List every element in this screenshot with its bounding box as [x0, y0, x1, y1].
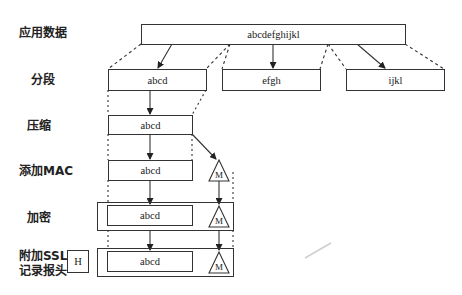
- fragment-box-1: abcd: [108, 69, 207, 91]
- fragment-box-3: ijkl: [346, 69, 445, 91]
- app-data-box: abcdefghijkl: [141, 24, 406, 45]
- mac-data-box: abcd: [108, 160, 193, 181]
- fragment-box-2: efgh: [222, 69, 321, 91]
- ssl-record-data-box: abcd: [107, 251, 193, 272]
- encrypted-data-box: abcd: [107, 205, 193, 226]
- mac-symbol: M: [215, 170, 223, 180]
- compressed-box: abcd: [108, 115, 193, 135]
- ssl-header-box: H: [67, 250, 89, 273]
